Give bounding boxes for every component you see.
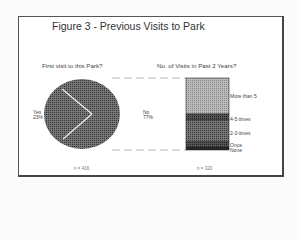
pie-label-no: No77% xyxy=(143,110,153,120)
pie-n-count: n = 416 xyxy=(74,166,89,171)
stacked-bar xyxy=(186,78,229,150)
bar-n-count: n = 320 xyxy=(197,166,212,171)
bar-label-none: None xyxy=(230,148,242,153)
bar-label-2-3: 2-3 times xyxy=(230,131,251,136)
pie-chart xyxy=(44,79,120,149)
pie-label-yes: Yes23% xyxy=(33,110,43,120)
bar-label-4-5: 4-5 times xyxy=(230,117,251,122)
bar-label-more-than-5: More than 5 xyxy=(230,94,257,99)
